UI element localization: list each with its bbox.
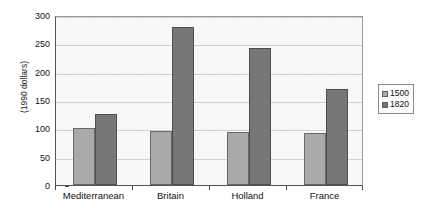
bar [227, 132, 249, 185]
y-axis-tick-label: 100 [14, 125, 50, 134]
plot-inner [56, 17, 362, 185]
x-axis-label: Mediterranean [63, 190, 124, 201]
legend-swatch-icon [382, 102, 388, 108]
bar-chart: (1990 dollars) 050100150200250300 Medite… [0, 0, 430, 219]
y-axis-tick-label: 250 [14, 40, 50, 49]
legend-item[interactable]: 1500 [382, 88, 409, 99]
legend-item[interactable]: 1820 [382, 99, 409, 110]
bar [172, 27, 194, 185]
legend-swatch-icon [382, 91, 388, 97]
y-axis-tick-label: 200 [14, 68, 50, 77]
bar-group [73, 17, 117, 185]
x-axis-label: Holland [231, 190, 263, 201]
x-axis-label: France [310, 190, 340, 201]
bar [249, 48, 271, 185]
y-axis-tick-label: 50 [14, 153, 50, 162]
bar [150, 131, 172, 185]
plot-area [55, 16, 363, 186]
legend-label: 1500 [390, 88, 409, 99]
legend-label: 1820 [390, 99, 409, 110]
bar [304, 133, 326, 185]
bar-group [150, 17, 194, 185]
y-axis-tick-labels: 050100150200250300 [14, 16, 50, 186]
bars-layer [56, 17, 362, 185]
bar-group [227, 17, 271, 185]
bar-group [304, 17, 348, 185]
x-axis-label: Britain [157, 190, 184, 201]
y-axis-tick-label: 300 [14, 12, 50, 21]
bar [95, 114, 117, 185]
legend: 15001820 [378, 84, 414, 114]
x-axis-category-labels: MediterraneanBritainHollandFrance [55, 190, 363, 206]
bar [73, 128, 95, 185]
y-axis-tick-label: 0 [14, 182, 50, 191]
bar [326, 89, 348, 185]
y-axis-tick-label: 150 [14, 97, 50, 106]
